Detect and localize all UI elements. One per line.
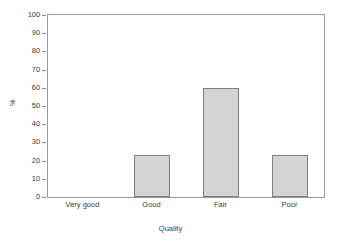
x-axis-title-label: Quality (159, 224, 182, 233)
y-axis-title: % (8, 99, 17, 106)
y-axis-tick-mark (42, 15, 46, 16)
bar-fair[interactable] (203, 88, 239, 197)
x-axis-tick-label: Fair (186, 200, 255, 210)
y-axis-tick-mark (42, 106, 46, 107)
bar-slot (48, 15, 117, 197)
y-axis-tick-mark (42, 161, 46, 162)
bar-good[interactable] (134, 155, 170, 197)
y-axis-tick-label: 40 (32, 119, 40, 128)
bars-layer (48, 15, 324, 197)
y-axis-tick-label: 30 (32, 137, 40, 146)
y-axis-tick-mark (42, 70, 46, 71)
y-axis-tick-label: 50 (32, 101, 40, 110)
bar-chart: 0102030405060708090100 % Very goodGoodFa… (0, 0, 339, 247)
y-axis-tick-mark (42, 51, 46, 52)
y-axis-tick-label: 0 (36, 192, 40, 201)
y-axis-tick-label: 20 (32, 156, 40, 165)
y-axis-tick-label: 10 (32, 174, 40, 183)
y-axis-tick-mark (42, 179, 46, 180)
y-axis-tick-mark (42, 33, 46, 34)
x-axis-tick-label: Very good (48, 200, 117, 210)
y-axis: 0102030405060708090100 (0, 14, 47, 198)
x-axis: Very goodGoodFairPoor (48, 200, 324, 214)
bar-slot (255, 15, 324, 197)
y-axis-tick-mark (42, 124, 46, 125)
y-axis-tick-label: 90 (32, 28, 40, 37)
x-axis-tick-label: Good (117, 200, 186, 210)
bar-slot (186, 15, 255, 197)
y-axis-tick-mark (42, 142, 46, 143)
y-axis-tick-mark (42, 197, 46, 198)
bar-poor[interactable] (272, 155, 308, 197)
y-axis-tick-label: 60 (32, 83, 40, 92)
x-axis-title: Quality (0, 224, 339, 233)
bar-slot (117, 15, 186, 197)
y-axis-tick-mark (42, 88, 46, 89)
x-axis-tick-label: Poor (255, 200, 324, 210)
y-axis-tick-label: 80 (32, 46, 40, 55)
y-axis-tick-label: 100 (28, 10, 40, 19)
y-axis-tick-label: 70 (32, 65, 40, 74)
